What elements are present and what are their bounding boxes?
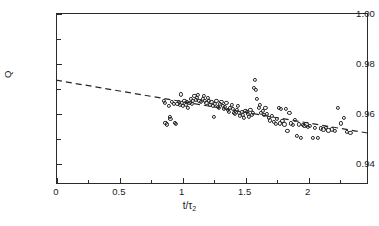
x-axis-title-subscript: 2 [192,205,196,212]
x-tick-major [246,178,247,183]
x-tick-label: 1 [179,186,184,197]
x-tick-major [57,178,58,183]
x-tick-major [309,178,310,183]
x-tick-label: 1.5 [238,186,252,197]
x-tick-label: 0 [53,186,58,197]
y-tick-major [57,14,62,15]
x-tick-minor [214,180,215,184]
y-tick-major [57,64,62,65]
y-tick-label: 0.98 [356,58,375,69]
y-tick-label: 1.00 [356,8,375,19]
plot-area [56,13,368,184]
y-tick-label: 0.96 [356,108,375,119]
x-tick-minor [277,180,278,184]
x-tick-major [183,178,184,183]
x-tick-label: 2 [305,186,310,197]
x-tick-minor [88,180,89,184]
x-tick-label: 0.5 [112,186,126,197]
x-axis-title: t/τ2 [0,200,379,212]
x-tick-minor [340,180,341,184]
x-axis-title-text: t/τ [183,200,193,211]
y-tick-minor [57,39,61,40]
x-tick-minor [151,180,152,184]
y-tick-label: 0.94 [356,158,375,169]
y-tick-major [57,114,62,115]
y-tick-minor [57,139,61,140]
x-tick-major [120,178,121,183]
y-tick-major [57,164,62,165]
y-tick-minor [57,89,61,90]
scatter-chart-figure: Q t/τ2 0.940.960.981.0000.511.52 [0,0,379,226]
y-axis-title: Q [2,71,13,78]
